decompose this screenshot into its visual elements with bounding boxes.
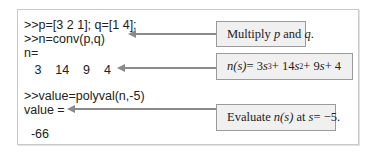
arrow-polynomial: [124, 67, 216, 69]
code-line-polyval: >>value=polyval(n,-5): [24, 89, 145, 103]
callout-text: Multiply: [227, 27, 271, 42]
callout-text: .: [311, 27, 314, 42]
callout-text: at: [296, 110, 305, 125]
fn-n-s: n(s): [274, 110, 293, 125]
code-line-n-label: n=: [24, 46, 38, 60]
poly-lhs: n(s): [227, 59, 246, 74]
callout-text: Evaluate: [227, 110, 271, 125]
code-line-n-values: 3 14 9 4: [24, 63, 111, 77]
callout-multiply: Multiply p and q.: [216, 21, 306, 47]
var-p: p: [274, 27, 280, 42]
code-line-conv: >>n=conv(p,q): [24, 32, 105, 46]
code-line-value-result: -66: [24, 127, 49, 141]
callout-text: and: [283, 27, 301, 42]
poly-text: + 9: [303, 59, 319, 74]
callout-text: = −5.: [313, 110, 340, 125]
callout-evaluate: Evaluate n(s) at s = −5.: [216, 104, 336, 131]
poly-text: + 4: [325, 59, 341, 74]
arrow-multiply: [135, 33, 216, 35]
arrow-evaluate: [74, 108, 216, 110]
code-line-value-label: value =: [24, 103, 65, 117]
arrowhead-icon: [117, 64, 125, 72]
code-line-define-p-q: >>p=[3 2 1]; q=[1 4];: [24, 18, 137, 32]
callout-polynomial: n(s) = 3s3 + 14s2 + 9s + 4: [216, 53, 353, 80]
poly-text: + 14: [272, 59, 295, 74]
arrowhead-icon: [128, 30, 136, 38]
poly-text: = 3: [246, 59, 262, 74]
arrowhead-icon: [67, 105, 75, 113]
